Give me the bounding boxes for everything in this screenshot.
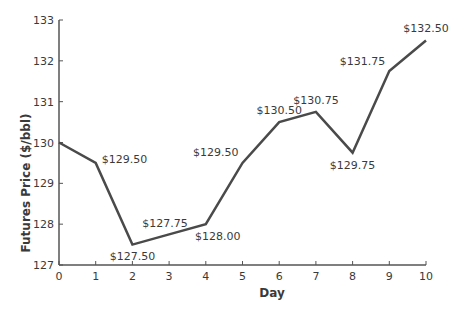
x-axis-label: Day [259,286,285,300]
x-tick-label: 10 [419,270,433,283]
data-label: $129.50 [102,153,148,166]
x-tick-label: 1 [92,270,99,283]
x-tick-label: 4 [202,270,209,283]
data-label: $127.75 [142,217,188,230]
y-tick-label: 128 [33,218,54,231]
futures-price-chart: 127128129130131132133012345678910 $129.5… [0,0,463,310]
y-tick-label: 133 [33,14,54,27]
x-tick-label: 0 [56,270,63,283]
data-labels: $129.50$127.50$127.75$128.00$129.50$130.… [102,22,449,262]
x-tick-label: 9 [386,270,393,283]
x-tick-label: 2 [129,270,136,283]
data-label: $127.50 [110,250,156,263]
x-tick-label: 5 [239,270,246,283]
x-tick-label: 3 [166,270,173,283]
data-label: $131.75 [340,55,386,68]
x-tick-label: 6 [276,270,283,283]
data-label: $129.50 [193,146,239,159]
y-tick-label: 129 [33,177,54,190]
data-label: $132.50 [403,22,449,35]
price-line [59,40,426,244]
data-label: $128.00 [195,230,241,243]
y-axis-label: Futures Price ($/bbl) [19,113,33,252]
y-tick-label: 131 [33,96,54,109]
x-tick-label: 8 [349,270,356,283]
x-tick-label: 7 [312,270,319,283]
data-label: $129.75 [330,159,376,172]
y-tick-label: 127 [33,259,54,272]
y-tick-label: 130 [33,137,54,150]
y-tick-label: 132 [33,55,54,68]
data-label: $130.75 [293,94,339,107]
